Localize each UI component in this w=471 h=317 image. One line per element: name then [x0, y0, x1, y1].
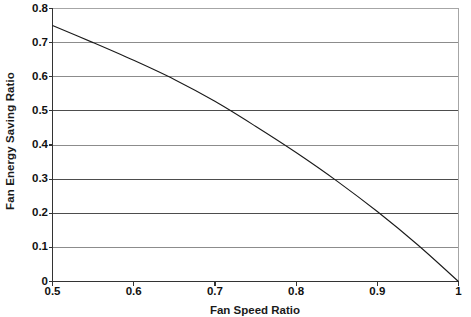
x-tick-label: 0.8 — [276, 286, 316, 298]
x-axis-tick-labels: 0.50.60.70.80.91 — [0, 0, 471, 317]
x-tick-label: 0.9 — [357, 286, 397, 298]
x-tick-label: 1 — [439, 286, 471, 298]
x-tick-label: 0.5 — [33, 286, 73, 298]
x-tick-label: 0.7 — [195, 286, 235, 298]
chart-container: Fan Energy Saving Ratio 00.10.20.30.40.5… — [0, 0, 471, 317]
x-tick-label: 0.6 — [114, 286, 154, 298]
x-axis-title: Fan Speed Ratio — [52, 305, 458, 317]
